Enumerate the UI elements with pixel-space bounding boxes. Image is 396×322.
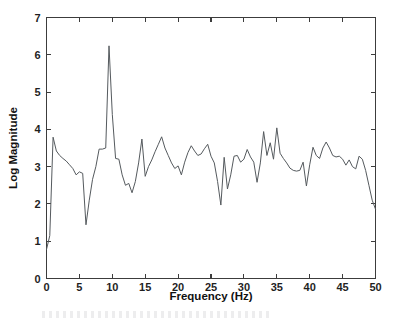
x-tick-label: 40 [304, 281, 316, 293]
y-tick-label: 1 [34, 235, 40, 247]
x-tick-label: 5 [76, 281, 82, 293]
figure-container: 05101520253035404550 01234567 Frequency … [0, 0, 396, 322]
chart-background [0, 0, 396, 322]
y-tick-label: 6 [34, 49, 40, 61]
caption-artifact [42, 311, 272, 318]
y-tick-label: 5 [34, 86, 40, 98]
x-tick-label: 45 [336, 281, 348, 293]
y-tick-label: 3 [34, 161, 40, 173]
x-tick-label: 15 [139, 281, 151, 293]
x-tick-label: 0 [43, 281, 49, 293]
y-tick-label: 0 [34, 273, 40, 285]
x-axis-title: Frequency (Hz) [169, 290, 252, 302]
x-tick-label: 35 [271, 281, 283, 293]
x-tick-label: 50 [369, 281, 381, 293]
y-tick-label: 4 [34, 123, 41, 135]
y-tick-label: 2 [34, 198, 40, 210]
y-tick-label: 7 [34, 12, 40, 24]
x-tick-label: 10 [106, 281, 118, 293]
y-axis-title: Log Magnitude [7, 107, 19, 189]
line-chart: 05101520253035404550 01234567 Frequency … [0, 0, 396, 322]
